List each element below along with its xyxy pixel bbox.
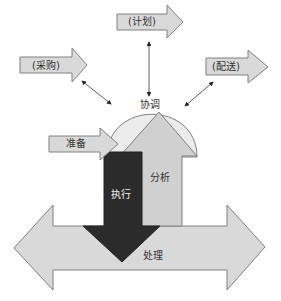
coordinate-label: 协调 [140, 100, 160, 110]
execute-label: 执行 [111, 190, 131, 200]
diagram-canvas [0, 0, 281, 301]
delivery-label: (配送) [212, 62, 240, 72]
analyze-label: 分析 [150, 173, 170, 183]
connector-purchase-coordinate [82, 81, 111, 104]
connector-delivery-coordinate [185, 82, 213, 106]
plan-label: (计划) [128, 17, 156, 27]
purchase-label: (采购) [32, 61, 60, 71]
prepare-label: 准备 [66, 139, 86, 149]
process-label: 处理 [143, 251, 163, 261]
